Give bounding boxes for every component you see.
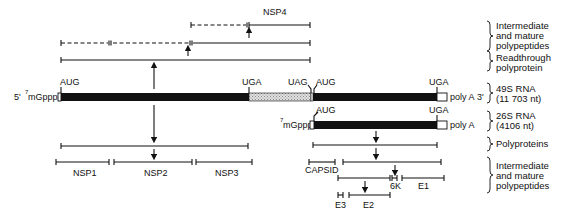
e3-label: E3 xyxy=(335,200,346,210)
codon-label: UAG xyxy=(288,77,308,87)
genome-49s: 5' 7 mGppp poly A 3' AUG UGA UAG AUG UGA xyxy=(14,77,484,102)
side-label: polypeptides xyxy=(496,40,550,51)
rna-49s-length: (11 703 nt) xyxy=(496,93,541,104)
brace-icon xyxy=(487,157,493,193)
three-prime-label: 3' xyxy=(477,92,484,102)
nsp4-label: NSP4 xyxy=(263,7,287,17)
five-prime-label: 5' xyxy=(14,92,21,102)
codon-label: UGA xyxy=(242,77,262,87)
side-label: Polyproteins xyxy=(496,138,549,149)
codon-label: AUG xyxy=(316,77,336,87)
nsp1-label: NSP1 xyxy=(73,168,97,178)
brace-icon xyxy=(487,83,493,103)
brace-icon xyxy=(487,51,493,71)
e2-label: E2 xyxy=(363,200,374,210)
polya-label: poly A xyxy=(450,92,475,102)
cap-label: mGppp xyxy=(283,120,313,130)
nsp3-label: NSP3 xyxy=(215,168,239,178)
side-label: polypeptides xyxy=(496,180,550,191)
intermediate-row xyxy=(61,40,310,56)
e1-label: E1 xyxy=(418,181,429,191)
side-labels: Intermediate and mature polypeptides Rea… xyxy=(487,20,551,193)
nsp4-row: NSP4 xyxy=(191,7,310,38)
cap-label: mGppp xyxy=(28,92,58,102)
brace-icon xyxy=(487,21,493,51)
codon-label: AUG xyxy=(60,77,80,87)
readthrough-row xyxy=(61,57,310,89)
structural-polyprotein: CAPSID 6K E1 E3 E2 xyxy=(305,131,444,210)
polya-label: poly A xyxy=(450,120,475,130)
capsid-label: CAPSID xyxy=(305,165,339,175)
brace-icon xyxy=(487,111,493,131)
nonstructural-polyprotein: NSP1 NSP2 NSP3 xyxy=(56,105,252,178)
codon-label: UGA xyxy=(429,77,449,87)
6k-label: 6K xyxy=(390,181,401,191)
codon-label: UGA xyxy=(429,105,449,115)
genome-diagram: NSP4 5' 7 mGppp poly A xyxy=(0,0,572,219)
codon-label: AUG xyxy=(316,105,336,115)
side-label: polyprotein xyxy=(496,62,542,73)
brace-icon xyxy=(487,137,493,151)
rna-26s-length: (4106 nt) xyxy=(496,120,534,131)
nsp2-label: NSP2 xyxy=(144,168,168,178)
genome-26s: 7 mGppp poly A AUG UGA xyxy=(280,105,475,130)
